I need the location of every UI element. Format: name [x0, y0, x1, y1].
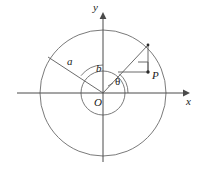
x-axis-label: x	[186, 96, 191, 107]
geometry-figure: y x O a b θ P	[0, 0, 199, 174]
y-axis-arrowhead	[100, 12, 107, 19]
point-p-label: P	[152, 70, 159, 81]
angle-theta-arc	[119, 74, 128, 93]
point-p-dot	[146, 70, 149, 73]
right-angle-marker	[138, 62, 148, 72]
terminal-point-dot	[147, 44, 150, 47]
geometry-canvas	[0, 0, 199, 174]
terminal-ray	[103, 45, 148, 93]
angle-b-label: b	[96, 63, 102, 74]
radius-segment-a	[48, 57, 103, 93]
y-axis-label: y	[93, 2, 98, 13]
origin-label: O	[94, 97, 102, 108]
angle-theta-label: θ	[115, 76, 120, 87]
radius-a-label: a	[67, 56, 73, 67]
right-angle-marker-inner	[138, 62, 148, 72]
